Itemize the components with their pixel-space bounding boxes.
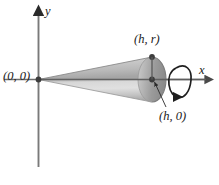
revolution-arrow: [169, 66, 191, 97]
x-axis-label: x: [199, 64, 205, 77]
label-base-center: (h, 0): [159, 110, 186, 123]
label-top-vertex: (h, r): [134, 33, 160, 46]
y-axis-label: y: [45, 5, 51, 18]
figure-canvas: [0, 0, 219, 185]
cone-revolution-figure: (0, 0) (h, r) (h, 0) x y: [0, 0, 219, 185]
label-origin: (0, 0): [3, 70, 30, 83]
point-origin: [36, 77, 42, 83]
